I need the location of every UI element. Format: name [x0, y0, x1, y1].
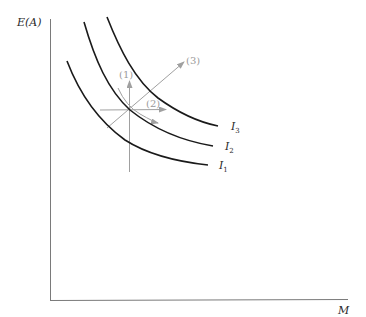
arrow-label-1: (1): [119, 69, 133, 80]
curve-i2: [84, 22, 213, 146]
curve-label-i2: I2: [224, 140, 234, 155]
x-axis: [50, 300, 348, 301]
curve-label-i1: I1: [218, 159, 228, 174]
x-axis-label: M: [337, 304, 350, 317]
indifference-curves: [67, 17, 218, 165]
arrow-label-2: (2): [146, 98, 160, 109]
arrow-label-3: (3): [186, 55, 200, 66]
curve-label-i3: I3: [230, 120, 240, 135]
direction-arrows: [100, 62, 184, 172]
indifference-curve-diagram: E(A) M (1) (2) (3) I1 I2 I3: [0, 0, 366, 317]
y-axis-label: E(A): [16, 16, 42, 29]
